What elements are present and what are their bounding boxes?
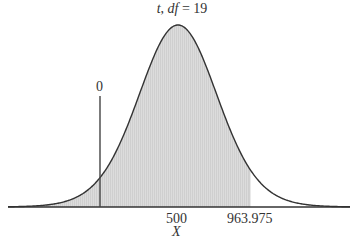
x-axis-label: X: [172, 225, 181, 239]
t-distribution-plot: [0, 0, 356, 239]
shaded-area: [8, 25, 250, 207]
chart-title: t, df = 19: [0, 2, 356, 16]
tick-label-cutoff: 963.975: [227, 212, 273, 226]
reference-label: 0: [96, 80, 103, 94]
